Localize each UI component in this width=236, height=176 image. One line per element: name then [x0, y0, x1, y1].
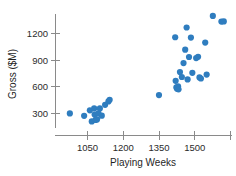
data-point [81, 113, 87, 119]
data-point [180, 60, 186, 66]
y-tick-label: 900 [32, 55, 48, 66]
x-tick-label: 1500 [184, 142, 205, 153]
y-tick-label: 1200 [27, 28, 48, 39]
x-tick-label: 1050 [77, 142, 98, 153]
data-point [195, 54, 201, 60]
data-point [198, 75, 204, 81]
data-point [97, 105, 103, 111]
data-point [107, 97, 113, 103]
x-axis-ticks: 1050120013501500 [77, 131, 231, 153]
x-axis: 1050120013501500 Playing Weeks [55, 131, 232, 168]
data-point [188, 35, 194, 41]
data-point [182, 47, 188, 53]
data-point [202, 40, 208, 46]
data-point [186, 54, 192, 60]
data-point [221, 18, 227, 24]
data-point [184, 76, 190, 82]
x-tick-label: 1350 [148, 142, 169, 153]
data-point [204, 72, 210, 78]
data-point [91, 105, 97, 111]
data-point [67, 110, 73, 116]
scatter-plot-figure: 3006009001200 Gross ($M) 105012001350150… [0, 0, 236, 176]
data-point [172, 34, 178, 40]
data-point [189, 70, 195, 76]
x-tick-label: 1200 [113, 142, 134, 153]
data-point [99, 113, 105, 119]
data-point [179, 74, 185, 80]
y-axis: 3006009001200 Gross ($M) [7, 14, 60, 128]
y-tick-label: 300 [32, 108, 48, 119]
data-point [175, 86, 181, 92]
chart-canvas: 3006009001200 Gross ($M) 105012001350150… [0, 0, 236, 176]
x-axis-title: Playing Weeks [110, 157, 176, 168]
data-point [156, 92, 162, 98]
data-point [173, 78, 179, 84]
data-point [210, 13, 216, 19]
data-points [67, 13, 227, 125]
y-tick-label: 600 [32, 81, 48, 92]
data-point [184, 24, 190, 30]
y-axis-title: Gross ($M) [7, 49, 18, 99]
